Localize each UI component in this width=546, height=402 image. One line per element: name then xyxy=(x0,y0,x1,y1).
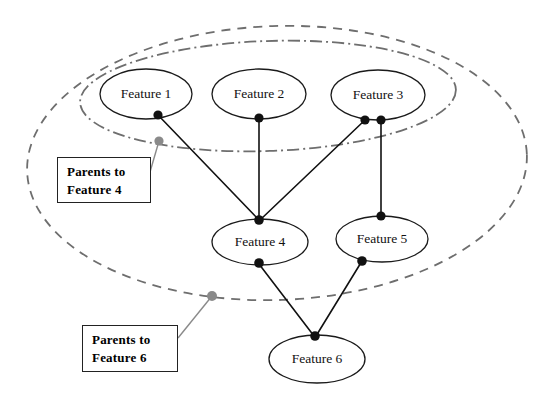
callout-feature-6-anchor-dot xyxy=(207,291,217,301)
node-label-feature5: Feature 5 xyxy=(357,231,408,246)
dot-f3-bottom-left xyxy=(360,115,369,124)
node-feature1[interactable]: Feature 1 xyxy=(100,69,192,119)
dot-f2-bottom xyxy=(254,113,263,122)
node-label-feature4: Feature 4 xyxy=(235,234,286,249)
edge-f5-f6 xyxy=(316,261,362,336)
edge-f3-f4 xyxy=(260,120,365,220)
diagram-container: Feature 1Feature 2Feature 3Feature 4Feat… xyxy=(0,0,546,402)
node-label-feature6: Feature 6 xyxy=(292,351,343,366)
callout-feature-6-leader-line xyxy=(178,296,212,338)
node-label-feature2: Feature 2 xyxy=(234,86,285,101)
callout-line-2: Feature 6 xyxy=(92,349,177,367)
dot-f1-bottom xyxy=(153,110,162,119)
dot-f5-bottom xyxy=(357,256,367,266)
dot-f6-top xyxy=(310,331,320,341)
callout-parents-to-feature-6: Parents to Feature 6 xyxy=(82,325,178,372)
node-feature3[interactable]: Feature 3 xyxy=(331,70,425,120)
node-feature6[interactable]: Feature 6 xyxy=(269,335,365,383)
callout-feature-4-leader-line xyxy=(150,141,159,172)
callout-line-1: Parents to xyxy=(67,163,150,181)
callout-line-2: Feature 4 xyxy=(67,181,150,199)
node-label-feature1: Feature 1 xyxy=(121,86,172,101)
node-feature2[interactable]: Feature 2 xyxy=(212,69,306,119)
node-feature5[interactable]: Feature 5 xyxy=(336,216,428,262)
dot-f5-top xyxy=(376,211,385,220)
dot-f3-bottom-right xyxy=(376,115,385,124)
edge-f1-f4 xyxy=(158,115,259,220)
node-feature4[interactable]: Feature 4 xyxy=(212,219,308,265)
dot-f4-top xyxy=(254,215,264,225)
dot-f4-bottom xyxy=(254,258,264,268)
callout-line-1: Parents to xyxy=(92,331,177,349)
node-label-feature3: Feature 3 xyxy=(353,87,404,102)
callout-feature-4-anchor-dot xyxy=(154,136,163,145)
callout-parents-to-feature-4: Parents to Feature 4 xyxy=(57,157,151,203)
